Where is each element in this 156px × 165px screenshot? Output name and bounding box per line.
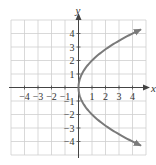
x-tick-label: −2 xyxy=(46,91,57,102)
x-tick-label: 4 xyxy=(130,91,135,102)
y-tick-label: 3 xyxy=(70,42,75,53)
y-tick-label: −4 xyxy=(64,136,75,147)
y-tick-label: −1 xyxy=(64,96,75,107)
x-tick-label: 1 xyxy=(90,91,95,102)
x-tick-label: 3 xyxy=(117,91,122,102)
x-tick-label: −3 xyxy=(33,91,44,102)
x-tick-label: −4 xyxy=(19,91,30,102)
parabola-chart: −4−3−2−11234−4−3−2−11234 x y xyxy=(0,0,156,165)
y-tick-label: −3 xyxy=(64,123,75,134)
y-tick-label: −2 xyxy=(64,109,75,120)
y-tick-label: 2 xyxy=(70,55,75,66)
y-axis-label: y xyxy=(75,4,81,16)
y-tick-label: 4 xyxy=(70,28,75,39)
x-axis-label: x xyxy=(150,82,156,94)
x-tick-label: 2 xyxy=(103,91,108,102)
y-tick-label: 1 xyxy=(70,69,75,80)
curve-upper-branch xyxy=(79,29,141,87)
